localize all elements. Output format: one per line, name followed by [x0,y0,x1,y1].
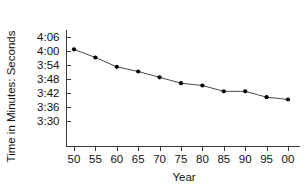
line-chart: Time in Minutes: Seconds Year 4:064:003:… [0,0,305,193]
y-tick-label: 3:36 [37,101,59,113]
y-tick-label: 3:30 [37,115,59,127]
x-tick-label: 85 [217,153,230,165]
x-tick-label: 65 [132,153,145,165]
data-point [179,81,183,85]
y-tick-label: 3:54 [37,59,60,71]
data-point [136,69,140,73]
data-point [243,89,247,93]
x-tick-label: 80 [196,153,209,165]
x-tick-label: 55 [89,153,102,165]
y-tick-label: 3:48 [37,73,59,85]
x-tick-label: 90 [239,153,252,165]
data-point [286,97,290,101]
x-tick-label: 60 [110,153,123,165]
x-tick-label: 50 [68,153,81,165]
y-tick-label: 4:00 [37,45,59,57]
data-point [115,65,119,69]
x-tick-label: 75 [175,153,188,165]
data-point [222,89,226,93]
x-tick-label: 00 [282,153,295,165]
data-point [93,55,97,59]
x-tick-label: 95 [260,153,273,165]
data-point [72,47,76,51]
y-tick-label: 4:06 [37,31,59,43]
data-point [158,75,162,79]
data-point [200,83,204,87]
y-tick-label-group: 4:064:003:543:483:423:363:30 [37,31,60,127]
data-series-line [74,49,288,99]
y-tick-mark-group [67,38,71,122]
x-tick-label: 70 [153,153,166,165]
data-point [265,95,269,99]
plot-area: 4:064:003:543:483:423:363:30 50556065707… [0,0,305,193]
x-tick-label-group: 5055606570758085909500 [68,153,295,165]
data-point-group [72,47,290,101]
x-tick-mark-group [75,147,289,151]
y-tick-label: 3:42 [37,87,59,99]
